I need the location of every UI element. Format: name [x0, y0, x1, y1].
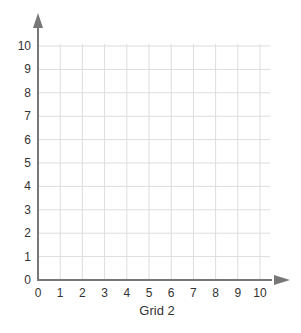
x-axis-tick-labels: 012345678910: [35, 286, 267, 300]
y-tick-label: 2: [24, 226, 31, 240]
x-tick-label: 6: [168, 286, 175, 300]
y-tick-label: 1: [24, 250, 31, 264]
y-tick-label: 6: [24, 133, 31, 147]
y-tick-label: 3: [24, 203, 31, 217]
grid-lines: [38, 44, 270, 280]
x-tick-label: 3: [101, 286, 108, 300]
y-axis-arrow-icon: [33, 13, 43, 28]
y-tick-label: 8: [24, 86, 31, 100]
y-tick-label: 4: [24, 179, 31, 193]
x-axis-arrow-icon: [274, 275, 290, 285]
x-tick-label: 9: [234, 286, 241, 300]
y-axis-tick-labels: 012345678910: [18, 39, 32, 287]
y-tick-label: 5: [24, 156, 31, 170]
x-tick-label: 5: [146, 286, 153, 300]
y-tick-label: 7: [24, 109, 31, 123]
y-tick-label: 9: [24, 62, 31, 76]
x-tick-label: 8: [212, 286, 219, 300]
x-tick-label: 0: [35, 286, 42, 300]
x-tick-label: 4: [123, 286, 130, 300]
y-tick-label: 10: [18, 39, 32, 53]
x-tick-label: 7: [190, 286, 197, 300]
coordinate-grid: 012345678910 012345678910 Grid 2: [0, 0, 301, 333]
chart-title: Grid 2: [139, 303, 174, 318]
x-tick-label: 10: [253, 286, 267, 300]
y-tick-label: 0: [24, 273, 31, 287]
x-tick-label: 2: [79, 286, 86, 300]
x-tick-label: 1: [57, 286, 64, 300]
